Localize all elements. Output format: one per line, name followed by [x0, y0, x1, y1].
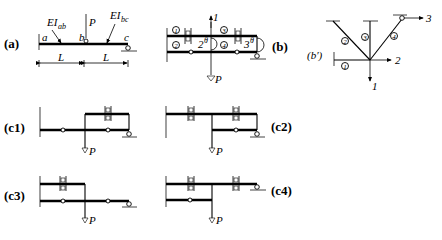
- dof-2-theta: θ: [204, 36, 208, 45]
- panel-b-prime-label: (b′): [307, 49, 323, 62]
- panel-c3: (c3) P: [4, 176, 137, 226]
- member-4-label-bp: 4: [392, 33, 396, 41]
- hinge-icon: [61, 128, 65, 132]
- dof-1-label: 1: [213, 11, 219, 23]
- roller-node-icon: [400, 16, 405, 21]
- dof-3-label-bp: 3: [425, 12, 432, 24]
- dof-3-label: 3: [243, 38, 250, 50]
- panel-a-label: (a): [4, 36, 19, 51]
- member-2-label: 2: [174, 42, 178, 50]
- member-4-label: 4: [222, 42, 226, 50]
- dof-2-label-bp: 2: [395, 54, 401, 66]
- member-1-label-bp: 1: [343, 63, 347, 71]
- load-p-label-b: P: [214, 73, 222, 85]
- panel-a: (a) a EI ab b P EI bc c L L: [4, 9, 137, 67]
- load-p-label-c3: P: [88, 214, 96, 226]
- load-arrowhead-icon: [207, 76, 215, 81]
- load-arrowhead-icon: [82, 148, 88, 153]
- panel-b-label: (b): [272, 39, 288, 54]
- dof-3-theta: θ: [250, 36, 254, 45]
- panel-c4: P (c4): [166, 176, 292, 226]
- roller-support-c-icon: [126, 46, 131, 51]
- panel-b: 1 2 3 4 1 P 2 θ 3 θ (b): [167, 11, 288, 85]
- load-arrowhead-icon: [209, 218, 215, 223]
- load-p-label-c1: P: [88, 145, 96, 157]
- span-1-label: L: [57, 51, 64, 63]
- ei-bc-arrow-icon: [107, 24, 115, 43]
- roller-support-icon: [255, 185, 260, 190]
- svg-text:ab: ab: [58, 22, 66, 31]
- ei-bc-label: EI bc: [109, 9, 129, 24]
- roller-support-icon: [127, 132, 132, 137]
- roller-support-icon: [255, 132, 260, 137]
- roller-support-b-icon: [255, 54, 260, 59]
- svg-text:EI: EI: [46, 16, 59, 28]
- panel-c1-label: (c1): [4, 120, 25, 135]
- dof-1-label-bp: 1: [372, 80, 378, 92]
- ei-ab-label: EI ab: [46, 16, 66, 31]
- hinge-icon: [106, 199, 110, 203]
- load-arrowhead-icon: [82, 218, 88, 223]
- panel-c2: P (c2): [166, 106, 292, 157]
- point-c-label: c: [124, 31, 129, 43]
- point-a-label: a: [42, 31, 48, 43]
- hinge-icon: [235, 50, 239, 54]
- member-3-label-bp: 3: [362, 34, 367, 42]
- member-2-label-bp: 2: [343, 38, 347, 46]
- hinge-icon: [61, 199, 65, 203]
- hinge-icon: [188, 198, 192, 202]
- load-p-label-c2: P: [215, 145, 223, 157]
- panel-c2-label: (c2): [271, 119, 292, 134]
- hinge-icon: [106, 128, 110, 132]
- load-arrowhead-icon: [209, 148, 215, 153]
- dof-2-rotation-icon: [211, 38, 217, 50]
- span-2-label: L: [102, 51, 109, 63]
- hinge-b-icon: [84, 39, 88, 43]
- member-1-label: 1: [174, 27, 178, 35]
- hinge-icon: [189, 50, 193, 54]
- panel-c3-label: (c3): [4, 188, 25, 203]
- panel-c4-label: (c4): [271, 183, 292, 198]
- roller-support-icon: [127, 202, 132, 207]
- svg-text:bc: bc: [121, 15, 129, 24]
- structural-diagram: (a) a EI ab b P EI bc c L L: [0, 0, 442, 240]
- ei-ab-arrow-icon: [52, 30, 61, 43]
- svg-text:EI: EI: [109, 9, 122, 21]
- panel-b-prime: (b′) 2 1 3 1 2 3 4: [307, 12, 432, 92]
- load-p-label: P: [88, 16, 96, 28]
- panel-c1: (c1) P: [4, 106, 137, 157]
- hinge-icon: [234, 128, 238, 132]
- member-3-label: 3: [221, 27, 226, 35]
- dof-3-rotation-icon: [257, 38, 264, 52]
- load-p-label-c4: P: [215, 214, 223, 226]
